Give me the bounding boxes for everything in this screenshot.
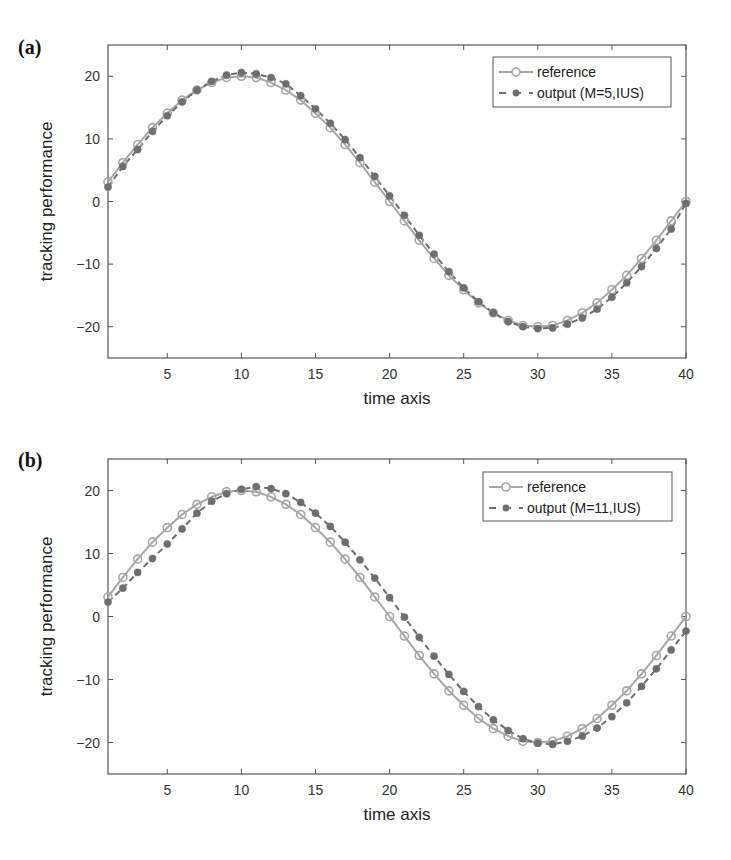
output-line: [108, 73, 686, 329]
output-marker: [460, 688, 467, 695]
output-marker: [416, 634, 423, 641]
legend-reference-label: reference: [537, 64, 596, 80]
output-marker: [164, 540, 171, 547]
legend-output-label: output (M=11,IUS): [527, 500, 641, 516]
x-tick-label: 5: [163, 366, 171, 382]
legend-output-marker-icon: [513, 90, 520, 97]
output-marker: [356, 556, 363, 563]
x-tick-label: 10: [234, 782, 250, 798]
output-marker: [371, 173, 378, 180]
output-marker: [460, 284, 467, 291]
legend: referenceoutput (M=5,IUS): [493, 57, 671, 107]
output-marker: [401, 212, 408, 219]
output-marker: [593, 724, 600, 731]
plot-area-b: 51015202530354020100−10−20time axistrack…: [37, 459, 694, 824]
output-marker: [638, 263, 645, 270]
output-marker: [253, 70, 260, 77]
output-marker: [490, 309, 497, 316]
output-marker: [534, 325, 541, 332]
output-marker: [327, 120, 334, 127]
output-marker: [549, 324, 556, 331]
x-axis-label: time axis: [363, 389, 430, 408]
y-tick-label: −10: [76, 672, 100, 688]
legend: referenceoutput (M=11,IUS): [483, 472, 672, 521]
x-tick-label: 25: [456, 782, 472, 798]
output-marker: [653, 665, 660, 672]
y-tick-label: 0: [92, 609, 100, 625]
output-marker: [327, 523, 334, 530]
x-tick-label: 35: [604, 366, 620, 382]
output-marker: [519, 735, 526, 742]
x-tick-label: 20: [382, 782, 398, 798]
output-marker: [164, 112, 171, 119]
output-marker: [179, 98, 186, 105]
y-tick-label: 20: [84, 483, 100, 499]
output-marker: [475, 298, 482, 305]
output-marker: [104, 184, 111, 191]
output-marker: [430, 653, 437, 660]
y-tick-label: 20: [84, 68, 100, 84]
legend-output-label: output (M=5,IUS): [537, 85, 644, 101]
x-tick-label: 5: [163, 782, 171, 798]
y-tick-label: 10: [84, 546, 100, 562]
plot-area-a: 51015202530354020100−10−20time axistrack…: [37, 45, 694, 408]
x-tick-label: 25: [456, 366, 472, 382]
output-marker: [668, 225, 675, 232]
y-tick-label: 10: [84, 131, 100, 147]
output-marker: [579, 733, 586, 740]
output-marker: [401, 614, 408, 621]
reference-line: [108, 76, 686, 326]
output-marker: [445, 671, 452, 678]
x-tick-label: 20: [382, 366, 398, 382]
output-marker: [534, 740, 541, 747]
output-marker: [579, 314, 586, 321]
output-marker: [267, 485, 274, 492]
output-marker: [668, 646, 675, 653]
x-tick-label: 15: [308, 782, 324, 798]
output-marker: [134, 146, 141, 153]
x-tick-label: 30: [530, 782, 546, 798]
output-marker: [386, 594, 393, 601]
x-axis-label: time axis: [363, 805, 430, 824]
output-marker: [179, 525, 186, 532]
legend-reference-marker-icon: [502, 483, 510, 491]
y-tick-label: −10: [76, 256, 100, 272]
x-tick-label: 40: [678, 782, 694, 798]
output-marker: [608, 294, 615, 301]
y-axis-label: tracking performance: [37, 537, 56, 697]
output-marker: [238, 69, 245, 76]
output-marker: [223, 490, 230, 497]
output-marker: [593, 306, 600, 313]
output-marker: [638, 683, 645, 690]
output-line: [108, 487, 686, 745]
output-marker: [208, 78, 215, 85]
x-tick-label: 30: [530, 366, 546, 382]
output-marker: [505, 318, 512, 325]
output-marker: [386, 192, 393, 199]
output-marker: [223, 71, 230, 78]
output-marker: [253, 483, 260, 490]
output-marker: [608, 713, 615, 720]
output-marker: [208, 498, 215, 505]
output-marker: [445, 268, 452, 275]
output-marker: [682, 200, 689, 207]
output-marker: [312, 105, 319, 112]
output-marker: [475, 703, 482, 710]
chart-panel-b: 51015202530354020100−10−20time axistrack…: [0, 414, 731, 844]
y-axis-label: tracking performance: [37, 122, 56, 282]
output-marker: [297, 499, 304, 506]
output-marker: [682, 627, 689, 634]
x-tick-label: 10: [234, 366, 250, 382]
output-marker: [430, 250, 437, 257]
output-marker: [549, 741, 556, 748]
output-marker: [519, 323, 526, 330]
y-tick-label: −20: [76, 319, 100, 335]
output-marker: [238, 486, 245, 493]
output-marker: [564, 738, 571, 745]
output-marker: [282, 490, 289, 497]
output-marker: [193, 510, 200, 517]
output-marker: [119, 585, 126, 592]
output-marker: [267, 74, 274, 81]
output-marker: [149, 128, 156, 135]
x-tick-label: 15: [308, 366, 324, 382]
